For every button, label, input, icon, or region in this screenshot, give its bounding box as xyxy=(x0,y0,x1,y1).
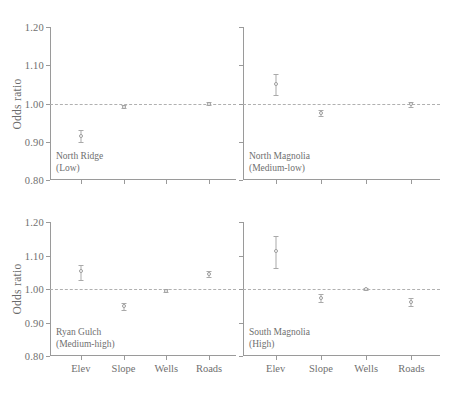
x-tick-north-magnolia-0 xyxy=(276,180,277,184)
error-bar-cap-lower xyxy=(121,108,126,109)
x-tick-label-ryan-gulch-slope: Slope xyxy=(112,363,136,374)
y-tick-south-magnolia-3 xyxy=(239,323,243,324)
x-tick-south-magnolia-0 xyxy=(276,356,277,360)
x-axis-line-south-magnolia xyxy=(243,355,440,356)
error-bar-cap-lower xyxy=(273,95,278,96)
y-tick-label-north-ridge-1: 1.10 xyxy=(25,60,44,71)
marker-circle xyxy=(122,105,126,109)
panel-name-north-magnolia: North Magnolia xyxy=(249,151,310,163)
panel-north-ridge: 1.201.101.000.900.80North Ridge(Low) xyxy=(50,27,236,180)
y-tick-ryan-gulch-4 xyxy=(46,356,50,357)
x-tick-ryan-gulch-3 xyxy=(209,356,210,360)
panel-south-magnolia: ElevSlopeWellsRoadsSouth Magnolia(High) xyxy=(243,222,440,356)
x-tick-label-south-magnolia-roads: Roads xyxy=(398,363,424,374)
reference-line-ryan-gulch xyxy=(50,289,236,290)
panel-sublabel-ryan-gulch: (Medium-high) xyxy=(56,339,115,351)
panel-sublabel-north-ridge: (Low) xyxy=(56,163,103,175)
y-tick-label-ryan-gulch-1: 1.10 xyxy=(25,250,44,261)
y-tick-label-north-ridge-0: 1.20 xyxy=(25,22,44,33)
y-tick-south-magnolia-4 xyxy=(239,356,243,357)
error-bar-cap-upper xyxy=(409,298,414,299)
x-axis-line-north-magnolia xyxy=(243,179,440,180)
error-bar-cap-upper xyxy=(273,74,278,75)
marker-circle xyxy=(122,304,126,308)
y-tick-north-magnolia-0 xyxy=(239,27,243,28)
marker-circle xyxy=(164,289,168,293)
error-bar-cap-lower xyxy=(78,142,83,143)
odds-ratio-figure: Odds ratio Odds ratio 1.201.101.000.900.… xyxy=(0,0,461,393)
y-tick-ryan-gulch-0 xyxy=(46,222,50,223)
panel-sublabel-north-magnolia: (Medium-low) xyxy=(249,163,310,175)
y-tick-ryan-gulch-3 xyxy=(46,323,50,324)
panel-sublabel-south-magnolia: (High) xyxy=(249,339,310,351)
x-tick-ryan-gulch-2 xyxy=(166,356,167,360)
plot-area-ryan-gulch: 1.201.101.000.900.80ElevSlopeWellsRoadsR… xyxy=(50,222,236,356)
marker-circle xyxy=(319,296,323,300)
panel-caption-north-ridge: North Ridge(Low) xyxy=(56,151,103,174)
marker-circle xyxy=(274,82,278,86)
error-bar-cap-upper xyxy=(273,236,278,237)
x-tick-north-magnolia-2 xyxy=(366,180,367,184)
panel-name-north-ridge: North Ridge xyxy=(56,151,103,163)
x-tick-north-magnolia-1 xyxy=(321,180,322,184)
error-bar-cap-lower xyxy=(409,107,414,108)
y-tick-north-ridge-3 xyxy=(46,142,50,143)
x-tick-ryan-gulch-0 xyxy=(81,356,82,360)
y-tick-north-ridge-4 xyxy=(46,180,50,181)
error-bar-cap-upper xyxy=(78,265,83,266)
panel-ryan-gulch: 1.201.101.000.900.80ElevSlopeWellsRoadsR… xyxy=(50,222,236,356)
error-bar-cap-lower xyxy=(318,302,323,303)
x-tick-north-ridge-1 xyxy=(124,180,125,184)
y-tick-north-ridge-0 xyxy=(46,27,50,28)
plot-area-north-ridge: 1.201.101.000.900.80North Ridge(Low) xyxy=(50,27,236,180)
x-tick-south-magnolia-2 xyxy=(366,356,367,360)
y-tick-north-magnolia-4 xyxy=(239,180,243,181)
marker-circle xyxy=(207,102,211,106)
marker-circle xyxy=(79,269,83,273)
y-axis-title-bottom: Odds ratio xyxy=(10,263,22,314)
error-bar-cap-lower xyxy=(121,310,126,311)
marker-circle xyxy=(207,272,211,276)
y-tick-north-magnolia-1 xyxy=(239,65,243,66)
marker-circle xyxy=(319,111,323,115)
x-tick-label-south-magnolia-elev: Elev xyxy=(266,363,285,374)
error-bar-cap-lower xyxy=(318,116,323,117)
x-tick-label-ryan-gulch-elev: Elev xyxy=(71,363,90,374)
error-bar-cap-lower xyxy=(207,277,212,278)
y-tick-label-north-ridge-4: 0.80 xyxy=(25,175,44,186)
y-tick-label-ryan-gulch-2: 1.00 xyxy=(25,284,44,295)
marker-circle xyxy=(409,300,413,304)
x-tick-south-magnolia-1 xyxy=(321,356,322,360)
y-axis-title-top: Odds ratio xyxy=(10,78,22,129)
x-tick-north-ridge-3 xyxy=(209,180,210,184)
x-tick-north-magnolia-3 xyxy=(411,180,412,184)
y-tick-label-ryan-gulch-4: 0.80 xyxy=(25,351,44,362)
y-tick-north-magnolia-3 xyxy=(239,142,243,143)
x-tick-label-ryan-gulch-wells: Wells xyxy=(154,363,178,374)
y-tick-south-magnolia-1 xyxy=(239,256,243,257)
error-bar-cap-lower xyxy=(409,306,414,307)
x-tick-label-south-magnolia-wells: Wells xyxy=(354,363,378,374)
x-tick-north-ridge-0 xyxy=(81,180,82,184)
y-tick-ryan-gulch-1 xyxy=(46,256,50,257)
y-tick-label-ryan-gulch-3: 0.90 xyxy=(25,317,44,328)
y-tick-label-north-ridge-2: 1.00 xyxy=(25,98,44,109)
y-tick-label-ryan-gulch-0: 1.20 xyxy=(25,217,44,228)
x-tick-label-south-magnolia-slope: Slope xyxy=(309,363,333,374)
x-tick-label-ryan-gulch-roads: Roads xyxy=(196,363,222,374)
error-bar-cap-upper xyxy=(78,130,83,131)
panel-name-ryan-gulch: Ryan Gulch xyxy=(56,327,115,339)
panel-north-magnolia: North Magnolia(Medium-low) xyxy=(243,27,440,180)
panel-caption-ryan-gulch: Ryan Gulch(Medium-high) xyxy=(56,327,115,350)
x-tick-south-magnolia-3 xyxy=(411,356,412,360)
marker-circle xyxy=(79,134,83,138)
panel-caption-south-magnolia: South Magnolia(High) xyxy=(249,327,310,350)
panel-name-south-magnolia: South Magnolia xyxy=(249,327,310,339)
reference-line-south-magnolia xyxy=(243,289,440,290)
error-bar-cap-lower xyxy=(273,268,278,269)
y-tick-north-ridge-1 xyxy=(46,65,50,66)
x-tick-ryan-gulch-1 xyxy=(124,356,125,360)
x-tick-north-ridge-2 xyxy=(166,180,167,184)
y-tick-south-magnolia-0 xyxy=(239,222,243,223)
error-bar-cap-lower xyxy=(78,280,83,281)
